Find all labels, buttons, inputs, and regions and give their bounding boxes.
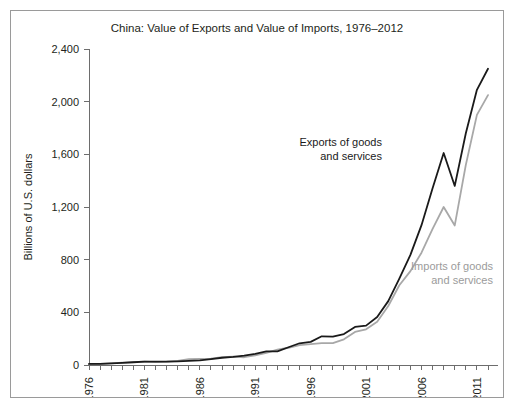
figure-frame: China: Value of Exports and Value of Imp… (10, 10, 504, 398)
y-tick-label: 1,200 (51, 201, 79, 213)
x-tick-label: 2006 (416, 377, 428, 397)
y-tick-label: 800 (61, 254, 79, 266)
series-label-exports-line1: Exports of goods (299, 136, 382, 148)
x-tick-label: 2011 (471, 377, 483, 397)
x-tick-label: 2001 (360, 377, 372, 397)
y-tick-label: 2,000 (51, 96, 79, 108)
chart-title: China: Value of Exports and Value of Imp… (111, 22, 403, 34)
series-label-exports-line2: and services (320, 150, 382, 162)
y-tick-label: 2,400 (51, 43, 79, 55)
x-tick-label: 1996 (305, 377, 317, 397)
x-tick-label: 1991 (249, 377, 261, 397)
series-label-imports-line2: and services (431, 274, 493, 286)
series-line-imports (89, 95, 488, 364)
x-tick-label: 1976 (83, 377, 95, 397)
series-label-imports-line1: Imports of goods (411, 260, 493, 272)
chart-canvas: China: Value of Exports and Value of Imp… (11, 11, 503, 397)
y-tick-label: 1,600 (51, 148, 79, 160)
x-tick-label: 1986 (194, 377, 206, 397)
y-tick-label: 0 (73, 359, 79, 371)
x-axis-ticks: 19761981198619911996200120062011 (83, 365, 488, 397)
series-line-exports (89, 69, 488, 364)
y-axis-label: Billions of U.S. dollars (22, 153, 34, 260)
y-tick-label: 400 (61, 306, 79, 318)
y-axis-ticks: 04008001,2001,6002,0002,400 (51, 43, 89, 371)
x-tick-label: 1981 (138, 377, 150, 397)
